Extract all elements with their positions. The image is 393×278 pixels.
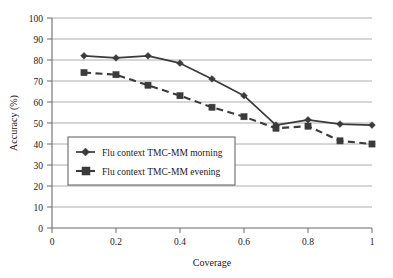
series-layer <box>81 52 376 147</box>
square-marker-icon <box>337 138 343 144</box>
square-marker-icon <box>305 123 311 129</box>
accuracy-vs-coverage-chart: 100 90 80 70 60 50 40 30 20 10 0 0 0.2 0… <box>0 0 393 278</box>
x-tick-label: 0.4 <box>174 237 186 247</box>
diamond-marker-icon <box>81 52 88 59</box>
x-axis-ticks <box>52 228 372 233</box>
square-marker-icon <box>82 167 90 175</box>
x-axis-tick-labels: 0 0.2 0.4 0.6 0.8 1 <box>50 237 375 247</box>
y-tick-label: 70 <box>34 77 44 87</box>
square-marker-icon <box>241 114 247 120</box>
diamond-marker-icon <box>305 116 312 123</box>
y-axis-ticks <box>47 18 52 228</box>
x-tick-label: 0.2 <box>110 237 122 247</box>
y-tick-label: 90 <box>34 35 44 45</box>
y-tick-label: 60 <box>34 98 44 108</box>
chart-figure: 100 90 80 70 60 50 40 30 20 10 0 0 0.2 0… <box>0 0 393 278</box>
square-marker-icon <box>209 104 215 110</box>
x-tick-label: 1 <box>370 237 375 247</box>
legend-label-morning: Flu context TMC-MM morning <box>102 148 223 158</box>
y-tick-label: 20 <box>34 182 44 192</box>
legend-label-evening: Flu context TMC-MM evening <box>102 167 221 177</box>
square-marker-icon <box>145 82 151 88</box>
square-marker-icon <box>113 72 119 78</box>
series-line <box>84 56 372 125</box>
y-tick-label: 100 <box>29 14 44 24</box>
x-tick-label: 0.8 <box>302 237 314 247</box>
diamond-marker-icon <box>337 121 344 128</box>
square-marker-icon <box>81 70 87 76</box>
y-tick-label: 40 <box>34 140 44 150</box>
series-line <box>84 73 372 144</box>
y-tick-label: 80 <box>34 56 44 66</box>
series-morning <box>81 52 376 128</box>
y-axis-tick-labels: 100 90 80 70 60 50 40 30 20 10 0 <box>29 14 44 234</box>
diamond-marker-icon <box>177 60 184 67</box>
square-marker-icon <box>369 141 375 147</box>
chart-legend: Flu context TMC-MM morning Flu context T… <box>68 137 235 185</box>
square-marker-icon <box>273 125 279 131</box>
legend-box <box>68 137 235 185</box>
diamond-marker-icon <box>145 52 152 59</box>
x-tick-label: 0 <box>50 237 55 247</box>
y-tick-label: 30 <box>34 161 44 171</box>
y-tick-label: 0 <box>38 224 43 234</box>
y-axis-title: Accuracy (%) <box>8 95 20 151</box>
square-marker-icon <box>177 93 183 99</box>
x-axis-title: Coverage <box>193 257 232 268</box>
y-tick-label: 50 <box>34 119 44 129</box>
y-tick-label: 10 <box>34 203 44 213</box>
x-tick-label: 0.6 <box>238 237 250 247</box>
